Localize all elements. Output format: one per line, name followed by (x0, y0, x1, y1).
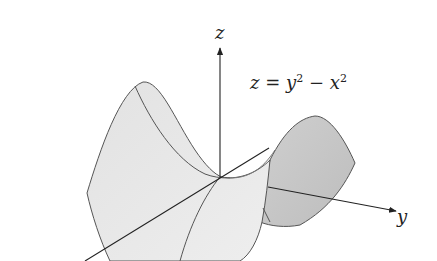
equation-label: z = y2 − x2 (250, 72, 347, 93)
eq-term2-base: x (330, 72, 340, 93)
eq-equals: = (259, 72, 286, 93)
surface-right-lobe (260, 116, 355, 226)
eq-term2-exp: 2 (340, 72, 347, 85)
z-axis-label: z (215, 22, 224, 43)
surface-main (87, 82, 270, 261)
eq-term1-base: y (286, 72, 296, 93)
y-axis-label: y (397, 206, 407, 227)
eq-minus: − (303, 72, 330, 93)
